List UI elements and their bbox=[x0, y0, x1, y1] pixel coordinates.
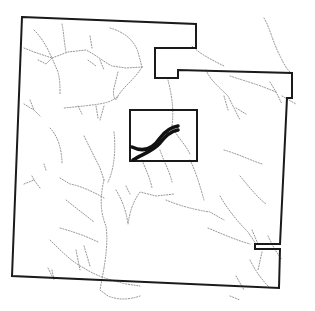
stream-line bbox=[84, 136, 104, 180]
stream-network bbox=[24, 18, 296, 300]
stream-line bbox=[64, 67, 142, 108]
stream-line bbox=[100, 268, 140, 299]
parcel-boundary bbox=[12, 17, 292, 288]
stream-line bbox=[76, 246, 90, 270]
stream-line bbox=[60, 228, 98, 242]
stream-line bbox=[224, 96, 246, 114]
stream-line bbox=[230, 76, 276, 92]
thick-feature-line bbox=[133, 130, 178, 160]
stream-line bbox=[24, 176, 40, 188]
stream-line bbox=[116, 190, 174, 224]
stream-line bbox=[168, 80, 190, 154]
stream-line bbox=[230, 276, 244, 300]
stream-line bbox=[142, 160, 152, 188]
stream-line bbox=[240, 176, 266, 204]
stream-line bbox=[166, 200, 224, 220]
stream-line bbox=[101, 180, 107, 268]
parcel-map bbox=[0, 0, 315, 311]
stream-line bbox=[250, 260, 270, 288]
stream-line bbox=[160, 150, 172, 182]
stream-line bbox=[224, 150, 262, 164]
stream-line bbox=[24, 100, 40, 116]
stream-line bbox=[60, 178, 104, 198]
stream-line bbox=[190, 160, 204, 200]
stream-line bbox=[84, 268, 140, 286]
stream-line bbox=[264, 18, 290, 72]
stream-line bbox=[113, 72, 118, 99]
stream-line bbox=[108, 132, 115, 182]
stream-line bbox=[66, 200, 94, 222]
stream-line bbox=[208, 228, 250, 244]
thick-feature-lines bbox=[132, 126, 178, 160]
stream-line bbox=[126, 186, 130, 194]
stream-line bbox=[220, 196, 256, 244]
stream-line bbox=[62, 24, 66, 52]
stream-line bbox=[44, 128, 62, 170]
stream-line bbox=[88, 36, 104, 70]
stream-line bbox=[110, 28, 142, 67]
stream-line bbox=[38, 58, 60, 94]
stream-line bbox=[78, 106, 104, 120]
